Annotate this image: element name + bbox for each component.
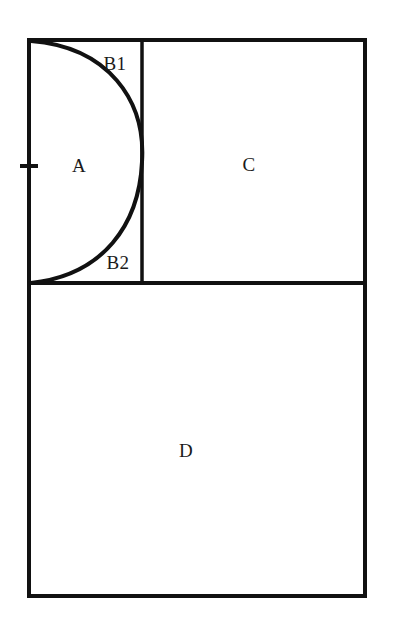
region-label-d: D bbox=[179, 440, 193, 461]
region-label-b1: B1 bbox=[103, 53, 126, 74]
region-label-a: A bbox=[72, 155, 86, 176]
geometry-diagram: A B1 B2 C D bbox=[0, 0, 395, 638]
region-d-fill bbox=[29, 283, 365, 596]
figure-canvas: A B1 B2 C D bbox=[0, 0, 395, 638]
region-label-c: C bbox=[242, 154, 255, 175]
region-label-b2: B2 bbox=[106, 252, 129, 273]
